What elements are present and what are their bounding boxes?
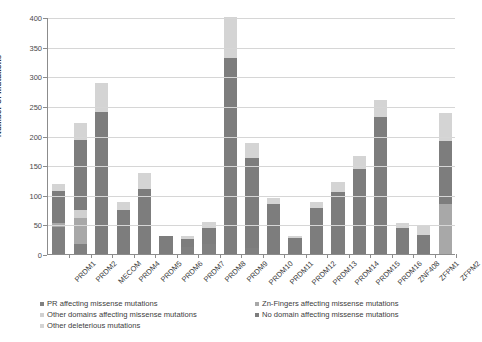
bar-column[interactable] [202, 222, 215, 254]
bar-segment [52, 184, 65, 191]
legend-item[interactable]: No domain affecting missense mutations [255, 311, 399, 319]
gridline [48, 48, 455, 49]
bar-column[interactable] [396, 223, 409, 254]
bar-segment [331, 182, 344, 193]
x-axis-tick-label: PRDM5 [158, 259, 183, 284]
x-axis-tick-mark [284, 254, 285, 258]
x-axis-tick-mark [177, 254, 178, 258]
bar-segment [417, 235, 430, 254]
gridline [48, 107, 455, 108]
bar-segment [245, 143, 258, 158]
bar-segment [374, 100, 387, 117]
y-axis-tick-label: 200 [6, 132, 42, 141]
x-axis-tick-mark [69, 254, 70, 258]
x-axis-tick-label: MECOM [116, 259, 143, 286]
bar-segment [74, 218, 87, 243]
y-axis-tick-label: 100 [6, 191, 42, 200]
x-axis-tick-mark [456, 254, 457, 258]
x-axis-tick-mark [241, 254, 242, 258]
bar-column[interactable] [74, 123, 87, 254]
x-axis-tick-label: PRDM6 [180, 259, 205, 284]
bar-segment [95, 112, 108, 254]
legend-swatch-icon [255, 302, 259, 306]
x-axis-tick-label: ZFPM1 [437, 259, 461, 283]
x-axis-tick-mark [155, 254, 156, 258]
bar-column[interactable] [159, 236, 172, 254]
bar-column[interactable] [374, 100, 387, 254]
legend-label: Other domains affecting missense mutatio… [47, 311, 197, 319]
plot-area [47, 18, 455, 255]
bar-column[interactable] [439, 113, 452, 254]
gridline [48, 196, 455, 197]
bar-column[interactable] [288, 236, 301, 254]
bar-segment [267, 204, 280, 254]
x-axis-tick-mark [327, 254, 328, 258]
legend-item[interactable]: Zn-Fingers affecting missense mutations [255, 300, 399, 308]
bar-column[interactable] [138, 173, 151, 254]
y-axis-tick-label: 400 [6, 14, 42, 23]
bar-segment [202, 228, 215, 244]
bar-segment [117, 202, 130, 210]
legend-swatch-icon [255, 313, 259, 317]
bar-column[interactable] [95, 83, 108, 254]
legend-label: Other deleterious mutations [47, 322, 140, 330]
bar-column[interactable] [117, 202, 130, 254]
x-axis-tick-mark [198, 254, 199, 258]
bar-segment [117, 210, 130, 254]
x-axis-tick-mark [91, 254, 92, 258]
bar-segment [74, 210, 87, 219]
bar-segment [331, 192, 344, 254]
gridline [48, 225, 455, 226]
bar-column[interactable] [417, 226, 430, 254]
bar-segment [310, 208, 323, 254]
legend-swatch-icon [40, 313, 44, 317]
legend-column-right: Zn-Fingers affecting missense mutationsN… [255, 300, 399, 322]
legend-swatch-icon [40, 324, 44, 328]
bar-column[interactable] [310, 202, 323, 254]
gridline [48, 166, 455, 167]
x-axis-tick-label: PRDM7 [201, 259, 226, 284]
bar-column[interactable] [353, 156, 366, 254]
gridline [48, 77, 455, 78]
bar-column[interactable] [245, 143, 258, 254]
bar-segment [74, 140, 87, 210]
x-axis-tick-mark [134, 254, 135, 258]
bar-column[interactable] [181, 236, 194, 254]
bar-segment [439, 204, 452, 254]
y-axis-tick-label: 300 [6, 73, 42, 82]
bar-segment [417, 226, 430, 235]
x-axis-tick-label: PRDM9 [244, 259, 269, 284]
bar-segment [138, 189, 151, 254]
y-axis-tick-mark [43, 255, 47, 256]
bar-segment [353, 169, 366, 254]
legend-item[interactable]: Other deleterious mutations [40, 322, 197, 330]
bar-segment [245, 158, 258, 248]
x-axis-tick-mark [263, 254, 264, 258]
bar-column[interactable] [331, 182, 344, 254]
bar-column[interactable] [224, 17, 237, 254]
x-axis-tick-mark [220, 254, 221, 258]
legend-item[interactable]: Other domains affecting missense mutatio… [40, 311, 197, 319]
x-axis-tick-mark [413, 254, 414, 258]
x-axis-tick-mark [306, 254, 307, 258]
x-axis-tick-mark [392, 254, 393, 258]
legend-item[interactable]: PR affecting missense mutations [40, 300, 197, 308]
legend-column-left: PR affecting missense mutationsOther dom… [40, 300, 197, 333]
bar-column[interactable] [52, 184, 65, 254]
y-axis-title: Number of mutations [0, 55, 3, 137]
gridline [48, 18, 455, 19]
bar-segment [439, 141, 452, 204]
legend-label: Zn-Fingers affecting missense mutations [262, 300, 399, 308]
gridline [48, 137, 455, 138]
y-axis-tick-label: 0 [6, 251, 42, 260]
bar-segment [181, 239, 194, 247]
legend-label: No domain affecting missense mutations [262, 311, 399, 319]
bar-segment [224, 17, 237, 58]
y-axis-tick-label: 350 [6, 43, 42, 52]
x-axis-tick-mark [112, 254, 113, 258]
bar-segment [353, 156, 366, 169]
legend-swatch-icon [40, 302, 44, 306]
bar-segment [74, 244, 87, 254]
bar-segment [202, 244, 215, 254]
x-axis-tick-label: ZFPM2 [458, 259, 482, 283]
